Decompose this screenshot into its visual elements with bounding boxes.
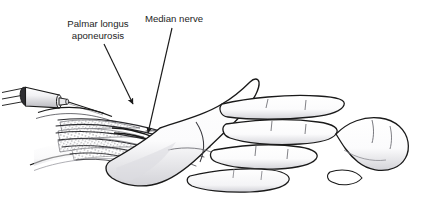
label-palmar-longus-line1: Palmar longus [67,18,129,29]
syringe-hub-tip [66,99,69,104]
middle-finger-outline [223,120,337,145]
hand-injection-figure: Palmar longus aponeurosis Median nerve [0,0,435,212]
ring-finger-outline [210,145,317,169]
label-palmar-longus-line2: aponeurosis [72,30,124,41]
illustration-canvas: Palmar longus aponeurosis Median nerve [0,0,435,212]
middle-finger [223,120,337,145]
ring-finger [210,145,317,169]
label-median-nerve: Median nerve [145,13,203,24]
